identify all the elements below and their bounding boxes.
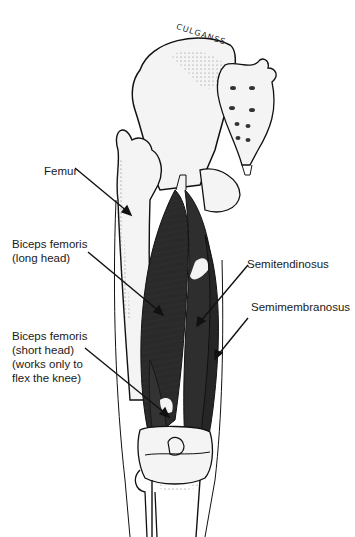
label-semitendinosus: Semitendinosus bbox=[247, 257, 329, 271]
label-biceps-femoris-long-head: Biceps femoris (long head) bbox=[12, 237, 87, 265]
knee-joint bbox=[135, 426, 212, 537]
label-biceps-femoris-short-head: Biceps femoris (short head) (works only … bbox=[12, 329, 87, 385]
label-femur: Femur bbox=[44, 164, 77, 178]
sacrum-bone bbox=[217, 59, 276, 175]
label-semimembranosus: Semimembranosus bbox=[251, 300, 350, 314]
